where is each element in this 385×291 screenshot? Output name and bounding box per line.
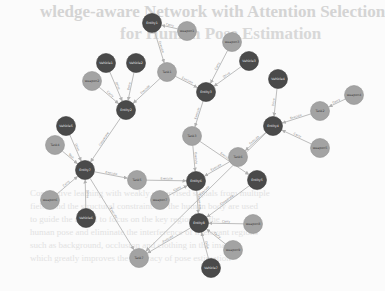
- node-label: Task4: [50, 143, 60, 147]
- graph-node-weapon3[interactable]: weapon3: [223, 33, 242, 52]
- graph-edge: [147, 228, 191, 253]
- edge-label: Execute: [290, 113, 303, 121]
- graph-node-weapon2[interactable]: weapon2: [83, 72, 102, 91]
- graph-node-task3[interactable]: Task3: [183, 127, 202, 146]
- graph-node-weapon7[interactable]: weapon7: [151, 191, 170, 210]
- graph-nodes: Entity1weapon1Vehicle1Vehicle2weapon2Tas…: [41, 14, 364, 278]
- node-label: Task5: [132, 178, 142, 182]
- edge-label: Carry: [166, 22, 175, 28]
- node-label: weapon5: [313, 146, 328, 150]
- graph-node-vehicle6[interactable]: Vehicle6: [77, 209, 96, 228]
- node-label: Task1: [162, 70, 172, 74]
- node-label: Entity4: [267, 124, 278, 128]
- graph-node-weapon9[interactable]: weapon9: [224, 241, 243, 260]
- graph-node-weapon4[interactable]: weapon4: [345, 86, 364, 105]
- graph-node-weapon6[interactable]: weapon6: [41, 191, 60, 210]
- node-label: weapon8: [246, 222, 261, 226]
- graph-edge: [133, 78, 160, 103]
- node-label: Vehicle3: [242, 59, 255, 63]
- node-label: Vehicle6: [79, 216, 92, 220]
- graph-node-vehicle5[interactable]: Vehicle5: [57, 117, 76, 136]
- node-label: Entity6: [190, 179, 201, 183]
- node-label: Entity3: [200, 90, 211, 94]
- edge-label: Cooperate: [98, 131, 110, 146]
- node-label: Entity7: [79, 168, 90, 172]
- graph-node-task5[interactable]: Task5: [128, 171, 147, 190]
- node-label: Entity5: [251, 178, 262, 182]
- graph-node-task2[interactable]: Task2: [311, 102, 330, 121]
- node-label: Entity2: [120, 108, 131, 112]
- node-label: Vehicle1: [99, 61, 112, 65]
- node-label: Vehicle2: [129, 61, 142, 65]
- graph-node-entity8[interactable]: Entity8: [190, 214, 209, 233]
- node-label: Task6: [233, 155, 243, 159]
- node-label: weapon9: [226, 248, 241, 252]
- graph-node-entity3[interactable]: Entity3: [197, 83, 216, 102]
- edge-label: Execute: [161, 176, 173, 180]
- node-label: weapon2: [85, 79, 100, 83]
- edge-label: Carry: [222, 219, 230, 223]
- graph-node-vehicle2[interactable]: Vehicle2: [127, 54, 146, 73]
- node-label: Entity8: [193, 221, 204, 225]
- graph-node-weapon1[interactable]: weapon1: [178, 22, 197, 41]
- graph-node-weapon5[interactable]: weapon5: [311, 139, 330, 158]
- graph-node-entity7[interactable]: Entity7: [76, 161, 95, 180]
- graph-node-entity6[interactable]: Entity6: [187, 172, 206, 191]
- edge-label: Drive: [126, 82, 132, 91]
- node-label: weapon1: [180, 29, 195, 33]
- node-label: weapon4: [347, 93, 362, 97]
- graph-node-vehicle3[interactable]: Vehicle3: [240, 52, 259, 71]
- graph-node-entity4[interactable]: Entity4: [264, 117, 283, 136]
- graph-node-task7[interactable]: Task7: [130, 249, 149, 268]
- node-label: Task3: [187, 134, 197, 138]
- graph-node-task1[interactable]: Task1: [158, 63, 177, 82]
- node-label: Entity1: [146, 21, 157, 25]
- edge-label: Execute: [193, 107, 200, 120]
- graph-node-entity5[interactable]: Entity5: [248, 171, 267, 190]
- node-label: weapon7: [153, 198, 168, 202]
- node-label: Task7: [134, 256, 144, 260]
- edge-label: Cooperate: [219, 194, 234, 207]
- node-label: Vehicle5: [59, 124, 72, 128]
- edge-label: Execute: [139, 84, 151, 95]
- graph-node-task4[interactable]: Task4: [46, 136, 65, 155]
- graph-node-vehicle1[interactable]: Vehicle1: [97, 54, 116, 73]
- node-label: weapon3: [225, 40, 240, 44]
- node-label: weapon6: [43, 198, 58, 202]
- node-label: Vehicle4: [271, 77, 284, 81]
- graph-node-vehicle4[interactable]: Vehicle4: [269, 70, 288, 89]
- graph-edge: [90, 178, 134, 250]
- node-label: Vehicle7: [204, 266, 217, 270]
- graph-edge: [207, 186, 250, 218]
- graph-node-entity1[interactable]: Entity1: [143, 14, 162, 33]
- graph-node-task6[interactable]: Task6: [229, 148, 248, 167]
- edge-label: Drive: [85, 190, 89, 198]
- graph-node-vehicle7[interactable]: Vehicle7: [202, 259, 221, 278]
- node-label: Task2: [315, 109, 325, 113]
- graph-node-entity2[interactable]: Entity2: [117, 101, 136, 120]
- graph-edge: [90, 118, 120, 162]
- graph-node-weapon8[interactable]: weapon8: [244, 215, 263, 234]
